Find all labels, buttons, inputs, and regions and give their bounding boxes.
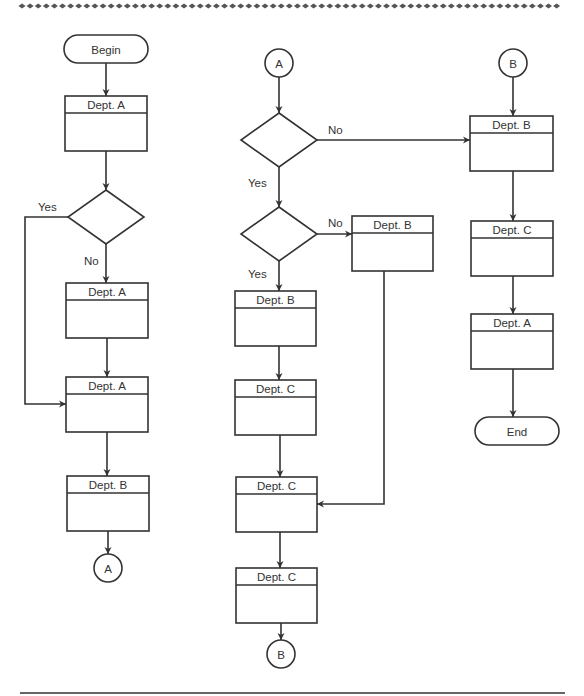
process-boxes: Dept. ADept. ADept. ADept. BDept. BDept.… <box>65 96 553 623</box>
process-box-label: Dept. B <box>89 479 128 491</box>
border-diamond-icon <box>545 4 552 9</box>
border-diamond-icon <box>189 4 196 9</box>
border-diamond-icon <box>521 4 528 9</box>
process-box-p2: Dept. A <box>66 283 148 338</box>
border-diamond-icon <box>399 4 406 9</box>
border-diamond-icon <box>108 4 115 9</box>
border-diamond-icon <box>100 4 107 9</box>
border-diamond-icon <box>164 4 171 9</box>
process-box-p10: Dept. B <box>470 116 553 171</box>
border-diamond-icon <box>27 4 34 9</box>
process-box-p9: Dept. C <box>236 568 317 623</box>
border-diamond-icon <box>140 4 147 9</box>
border-diamond-icon <box>505 4 512 9</box>
terminal-end: End <box>475 417 559 445</box>
border-diamond-icon <box>440 4 447 9</box>
process-box-label: Dept. C <box>493 224 532 236</box>
process-box-p4: Dept. B <box>67 476 149 531</box>
branch-label-d3-yes: Yes <box>248 268 267 280</box>
terminal-label: Begin <box>91 44 120 56</box>
border-diamond-icon <box>124 4 131 9</box>
border-diamond-icon <box>213 4 220 9</box>
connector-label: B <box>277 649 285 661</box>
process-box-p3: Dept. A <box>66 377 148 432</box>
border-diamond-icon <box>359 4 366 9</box>
connector-conn-b-in: B <box>499 49 527 77</box>
process-box-p11: Dept. C <box>471 221 553 276</box>
border-diamond-icon <box>262 4 269 9</box>
connector-conn-a-out: A <box>94 554 122 582</box>
border-diamond-icon <box>383 4 390 9</box>
border-diamond-icon <box>375 4 382 9</box>
process-box-p8: Dept. C <box>236 477 317 532</box>
process-box-label: Dept. A <box>88 380 126 392</box>
border-diamond-icon <box>334 4 341 9</box>
border-diamond-icon <box>456 4 463 9</box>
process-box-p5: Dept. B <box>352 216 433 271</box>
border-diamond-icon <box>480 4 487 9</box>
border-diamond-icon <box>294 4 301 9</box>
process-box-label: Dept. A <box>493 317 531 329</box>
process-box-p7: Dept. C <box>235 380 316 435</box>
process-box-label: Dept. C <box>256 383 295 395</box>
branch-label-d1-no: No <box>84 255 99 267</box>
border-diamond-icon <box>148 4 155 9</box>
border-diamond-icon <box>43 4 50 9</box>
border-diamond-icon <box>237 4 244 9</box>
border-diamond-icon <box>391 4 398 9</box>
process-box-label: Dept. C <box>257 571 296 583</box>
border-diamond-icon <box>529 4 536 9</box>
border-diamond-icon <box>343 4 350 9</box>
connector-conn-b-out: B <box>267 640 295 668</box>
branch-label-d2-yes: Yes <box>248 177 267 189</box>
process-box-label: Dept. C <box>257 480 296 492</box>
border-diamond-icon <box>488 4 495 9</box>
border-diamond-icon <box>553 4 560 9</box>
process-box-label: Dept. B <box>256 294 295 306</box>
border-diamond-icon <box>35 4 42 9</box>
border-diamond-icon <box>351 4 358 9</box>
border-diamond-icon <box>424 4 431 9</box>
flowchart-canvas: Dept. ADept. ADept. ADept. BDept. BDept.… <box>0 0 584 696</box>
process-box-p12: Dept. A <box>471 314 553 369</box>
arrow-d1-yes-loop <box>25 217 68 404</box>
border-diamond-icon <box>407 4 414 9</box>
border-diamond-icon <box>537 4 544 9</box>
decision-diamond-d3 <box>241 207 317 261</box>
border-diamond-icon <box>472 4 479 9</box>
branch-label-d3-no: No <box>328 217 343 229</box>
border-diamond-icon <box>221 4 228 9</box>
border-diamond-icon <box>270 4 277 9</box>
border-diamond-icon <box>116 4 123 9</box>
border-diamond-icon <box>496 4 503 9</box>
border-diamond-icon <box>464 4 471 9</box>
border-diamond-icon <box>253 4 260 9</box>
process-box-p6: Dept. B <box>235 291 316 346</box>
process-box-label: Dept. B <box>492 119 531 131</box>
border-diamond-icon <box>59 4 66 9</box>
connector-label: A <box>275 58 283 70</box>
border-diamond-icon <box>432 4 439 9</box>
border-diamond-icon <box>367 4 374 9</box>
border-diamond-icon <box>67 4 74 9</box>
decision-diamond-d2 <box>241 113 317 167</box>
branch-label-d1-yes: Yes <box>38 201 57 213</box>
border-diamond-icon <box>318 4 325 9</box>
border-diamond-icon <box>156 4 163 9</box>
process-box-p1: Dept. A <box>65 96 147 151</box>
border-diamond-icon <box>205 4 212 9</box>
border-diamond-icon <box>197 4 204 9</box>
border-diamond-icon <box>229 4 236 9</box>
border-diamond-icon <box>181 4 188 9</box>
border-diamond-icon <box>310 4 317 9</box>
process-box-label: Dept. A <box>88 286 126 298</box>
border-diamond-icon <box>245 4 252 9</box>
border-diamond-icon <box>326 4 333 9</box>
border-diamond-icon <box>172 4 179 9</box>
border-diamond-icon <box>448 4 455 9</box>
connector-label: B <box>509 58 517 70</box>
border-diamond-icon <box>83 4 90 9</box>
connector-conn-a-in: A <box>265 49 293 77</box>
border-diamond-icon <box>51 4 58 9</box>
border-diamond-icon <box>286 4 293 9</box>
